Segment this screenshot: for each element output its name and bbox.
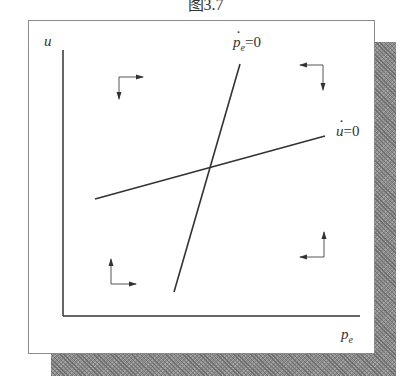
x-axis-label: pe	[341, 326, 353, 345]
pe-sub: e	[241, 42, 245, 53]
pe-dot-label: ·pe=0	[233, 34, 261, 53]
pe-var: ·pe	[233, 34, 245, 50]
y-axis-label: u	[44, 33, 52, 50]
dot-mark: ·	[236, 24, 241, 41]
u-dot-label: ·u=0	[336, 123, 359, 140]
arrow-pair-bottom-left	[111, 259, 136, 284]
x-axis-var: p	[341, 326, 349, 342]
pe-eq: =0	[245, 34, 261, 50]
x-axis-sub: e	[349, 334, 353, 345]
pe-dot-zero-line	[174, 64, 240, 292]
phase-diagram	[0, 0, 411, 382]
u-var: ·u	[336, 123, 344, 139]
arrow-pair-bottom-right	[300, 232, 324, 257]
arrow-pair-top-left	[119, 77, 143, 99]
arrow-pair-top-right	[300, 65, 323, 90]
u-eq: =0	[344, 123, 360, 139]
dot-mark: ·	[339, 113, 344, 130]
u-dot-zero-line	[95, 136, 325, 199]
